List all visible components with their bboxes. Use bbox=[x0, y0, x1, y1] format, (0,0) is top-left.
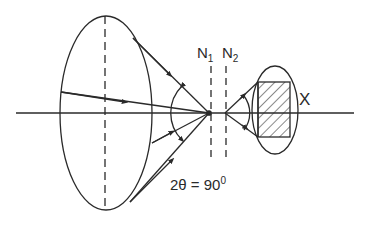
n2-text: N bbox=[222, 44, 233, 61]
optics-diagram: N1 N2 X 2θ = 900 bbox=[0, 0, 372, 226]
n1-subscript: 1 bbox=[208, 53, 214, 64]
label-n2: N2 bbox=[222, 44, 238, 64]
label-angle: 2θ = 900 bbox=[170, 175, 226, 193]
label-x: X bbox=[299, 90, 310, 110]
hatched-sample bbox=[258, 82, 290, 137]
n1-text: N bbox=[197, 44, 208, 61]
degree-superscript: 0 bbox=[220, 175, 226, 186]
n2-subscript: 2 bbox=[233, 53, 239, 64]
angle-text: 2θ = 90 bbox=[170, 176, 220, 193]
label-n1: N1 bbox=[197, 44, 213, 64]
